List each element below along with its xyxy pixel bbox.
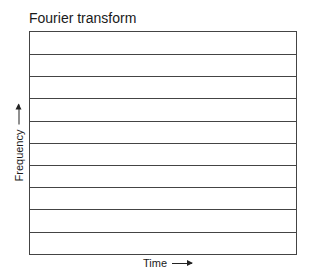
band-divider (30, 98, 296, 99)
band-divider (30, 54, 296, 55)
y-axis-label: Frequency (13, 105, 26, 182)
band-divider (30, 232, 296, 233)
band-divider (30, 209, 296, 210)
x-axis-label: Time (143, 257, 192, 270)
band-divider (30, 76, 296, 77)
up-arrow-icon (19, 105, 20, 125)
band-divider (30, 143, 296, 144)
diagram-title: Fourier transform (29, 10, 136, 26)
frequency-bands-grid (29, 31, 297, 255)
right-arrow-icon (172, 263, 192, 264)
x-axis-label-text: Time (143, 257, 167, 270)
band-divider (30, 121, 296, 122)
band-divider (30, 187, 296, 188)
y-axis-label-text: Frequency (13, 130, 26, 182)
band-divider (30, 165, 296, 166)
